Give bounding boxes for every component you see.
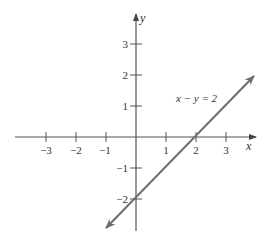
x-tick-label: 1 <box>163 144 169 156</box>
y-tick-label: −2 <box>116 193 128 205</box>
y-tick-label: 2 <box>123 69 129 81</box>
x-tick-label: −1 <box>99 144 111 156</box>
x-tick-label: 3 <box>223 144 229 156</box>
x-axis-label: x <box>245 139 252 153</box>
coordinate-plane: −3 −2 −1 1 2 3 3 2 1 −1 −2 x y x − y = 2 <box>0 0 267 243</box>
y-axis-label: y <box>139 11 146 25</box>
y-tick-label: 3 <box>123 38 129 50</box>
y-tick-label: 1 <box>123 100 129 112</box>
x-tick-label: 2 <box>193 144 199 156</box>
equation-label: x − y = 2 <box>175 92 218 104</box>
x-tick-label: −3 <box>40 144 52 156</box>
y-tick-label: −1 <box>116 162 128 174</box>
x-tick-label: −2 <box>70 144 82 156</box>
